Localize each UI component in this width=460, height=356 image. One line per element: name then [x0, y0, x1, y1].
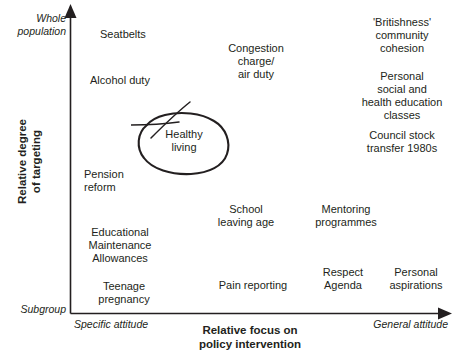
y-axis-low-label: Subgroup [4, 303, 66, 316]
data-point-label: Council stock transfer 1980s [348, 129, 456, 155]
x-axis-low-label: Specific attitude [74, 318, 148, 331]
y-axis-high-label: Whole population [4, 12, 66, 37]
data-point-label: Personal aspirations [374, 266, 458, 292]
x-axis-high-label: General attitude [352, 318, 448, 331]
x-axis-title: Relative focus on policy intervention [170, 324, 330, 351]
data-point-label: Pension reform [84, 168, 162, 194]
data-point-label: Pain reporting [207, 279, 299, 292]
data-point-label: Educational Maintenance Allowances [74, 226, 166, 265]
data-point-label: Alcohol duty [90, 74, 180, 87]
data-point-label: Respect Agenda [308, 266, 378, 292]
data-point-label: Personal social and health education cla… [348, 70, 456, 122]
y-axis-title: Relative degree of targeting [16, 87, 43, 237]
data-point-label: 'Britishness' community cohesion [350, 16, 454, 55]
healthy-living-label: Healthy living [155, 128, 213, 154]
data-point-label: Teenage pregnancy [80, 280, 168, 306]
data-point-label: Congestion charge/ air duty [218, 42, 294, 81]
data-point-label: Mentoring programmes [300, 203, 392, 229]
data-point-label: School leaving age [205, 203, 287, 229]
y-axis-line [65, 4, 77, 314]
y-axis-arrowhead [65, 4, 77, 18]
policy-intervention-mapping-figure: Figure 1: Mapping of policy intervention… [0, 0, 460, 356]
data-point-label: Seatbelts [100, 28, 180, 41]
